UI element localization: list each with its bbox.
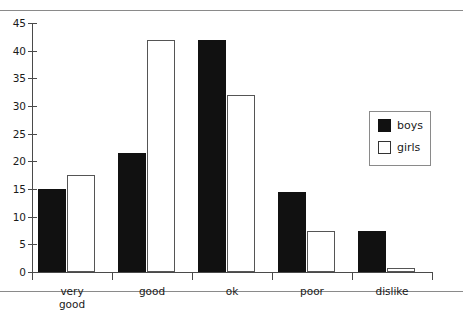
legend-item-girls: girls [378, 141, 430, 154]
y-tick [28, 217, 37, 218]
y-tick [28, 134, 37, 135]
y-tick [28, 78, 37, 79]
bar-boys-poor [278, 192, 306, 272]
y-axis [32, 23, 33, 272]
bar-girls-dislike [387, 268, 415, 272]
legend-swatch-girls-icon [378, 141, 391, 154]
x-tick [112, 272, 113, 280]
x-tick [192, 272, 193, 280]
bar-boys-dislike [358, 231, 386, 273]
x-axis [32, 272, 432, 273]
y-tick [28, 244, 37, 245]
y-tick [28, 106, 37, 107]
bar-boys-ok [198, 40, 226, 272]
y-tick-label: 15 [13, 184, 26, 195]
y-tick-label: 10 [13, 211, 26, 222]
y-tick-label: 40 [13, 45, 26, 56]
chart-legend: boys girls [369, 111, 431, 166]
y-tick-label: 45 [13, 18, 26, 29]
x-tick-label: ok [226, 285, 239, 298]
bar-girls-good [147, 40, 175, 272]
x-tick-label: good [139, 285, 165, 298]
page-rule-top [0, 10, 463, 11]
y-tick [28, 189, 37, 190]
x-tick-label: dislike [375, 285, 408, 298]
y-tick [28, 51, 37, 52]
legend-swatch-boys-icon [378, 119, 391, 132]
bar-girls-ok [227, 95, 255, 272]
y-tick-label: 30 [13, 101, 26, 112]
legend-item-boys: boys [378, 119, 430, 132]
bar-girls-very-good [67, 175, 95, 272]
y-tick-label: 5 [19, 239, 26, 250]
x-tick [352, 272, 353, 280]
bar-girls-poor [307, 231, 335, 273]
y-tick [28, 23, 37, 24]
bar-boys-very-good [38, 189, 66, 272]
x-tick [272, 272, 273, 280]
y-tick-label: 20 [13, 156, 26, 167]
y-tick [28, 161, 37, 162]
legend-label-boys: boys [397, 120, 423, 131]
y-tick-label: 0 [19, 267, 26, 278]
x-tick [432, 272, 433, 280]
y-tick-label: 25 [13, 128, 26, 139]
x-tick-label: very good [59, 285, 85, 311]
bar-boys-good [118, 153, 146, 272]
y-tick-label: 35 [13, 73, 26, 84]
x-tick [32, 272, 33, 280]
x-tick-label: poor [300, 285, 324, 298]
legend-label-girls: girls [397, 142, 420, 153]
